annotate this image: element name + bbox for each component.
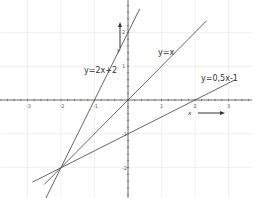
function-line <box>44 21 206 185</box>
x-tick-label: 3 <box>227 103 230 109</box>
x-direction-arrow <box>198 111 225 115</box>
x-tick-label: -3 <box>26 103 31 109</box>
y-tick-label: 2 <box>122 29 125 35</box>
label-y-2x-plus-2: y=2x+2 <box>84 66 117 75</box>
y-tick-label: 1 <box>122 63 125 69</box>
y-tick-label: -2 <box>122 165 127 171</box>
function-line <box>33 80 236 182</box>
x-tick-label: -2 <box>60 103 65 109</box>
x-tick-label: -1 <box>93 103 98 109</box>
function-plot: -3-2-1123-2-112 y=2x+2 y=x y=0,5x-1 x y <box>0 0 279 198</box>
label-y-x: y=x <box>158 48 174 57</box>
label-y-half-x-minus-1: y=0,5x-1 <box>201 74 238 83</box>
x-tick-label: 2 <box>194 103 197 109</box>
x-axis-label: x <box>187 109 192 116</box>
x-tick-label: 1 <box>160 103 163 109</box>
